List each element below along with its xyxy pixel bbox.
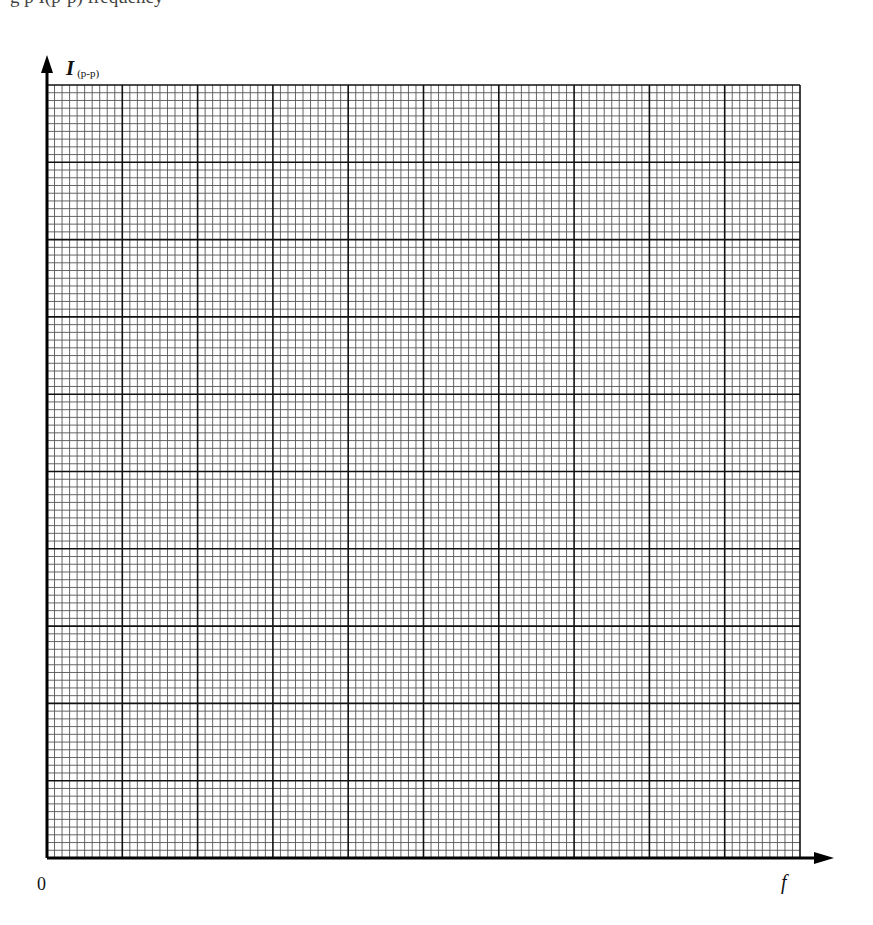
x-axis-label: f xyxy=(781,872,787,892)
y-axis-label: I(p-p) xyxy=(66,58,99,79)
y-axis-arrow-icon xyxy=(41,55,53,73)
graph-paper xyxy=(0,0,873,925)
y-axis-label-subscript: (p-p) xyxy=(77,67,99,79)
origin-label: 0 xyxy=(37,875,46,893)
x-axis-arrow-icon xyxy=(814,852,834,864)
y-axis-label-main: I xyxy=(66,56,74,80)
graph-paper-figure: I(p-p) 0 f xyxy=(0,0,873,925)
